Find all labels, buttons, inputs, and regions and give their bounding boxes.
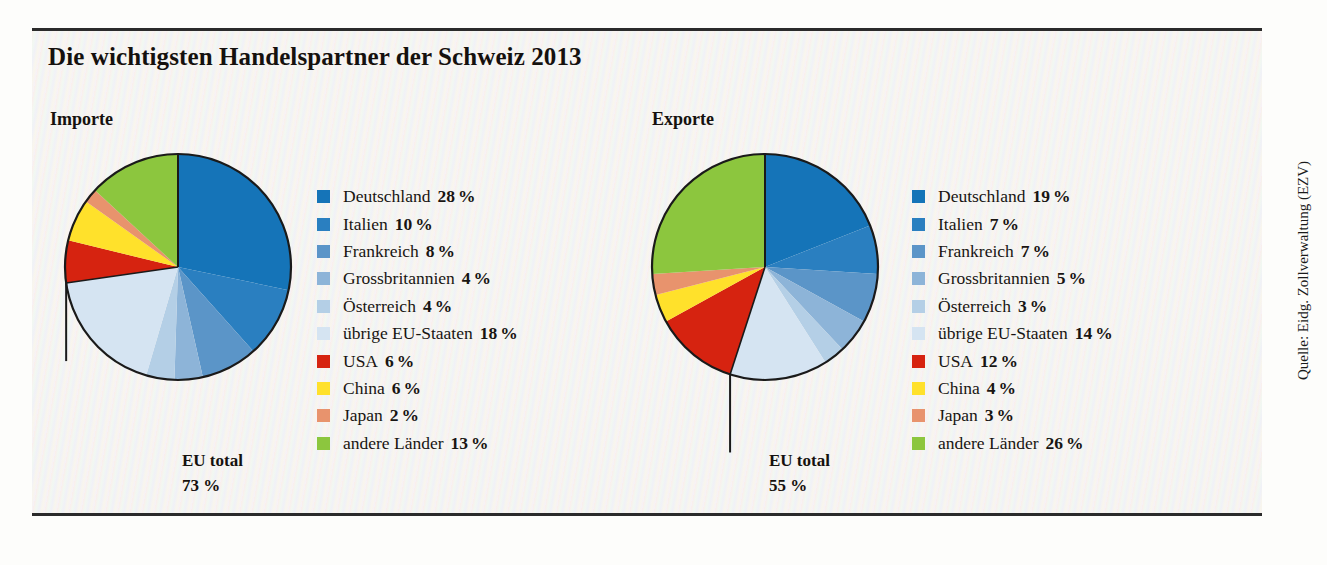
legend-value: 6: [392, 378, 401, 399]
legend-swatch-icon: [317, 409, 330, 422]
legend-swatch-icon: [317, 355, 330, 368]
section-label-exports: Exporte: [652, 109, 714, 130]
legend-label: China: [938, 378, 980, 399]
legend-label: andere Länder: [343, 433, 444, 454]
legend-row: Österreich3%: [912, 293, 1113, 320]
legend-label: Japan: [938, 405, 978, 426]
pie-slices-imports: [65, 154, 291, 380]
legend-swatch-icon: [317, 190, 330, 203]
legend-row: Deutschland19%: [912, 183, 1113, 210]
page-title: Die wichtigsten Handelspartner der Schwe…: [48, 43, 582, 71]
legend-label: Frankreich: [343, 241, 419, 262]
pie-svg-exports: [647, 149, 887, 389]
legend-value: 26: [1046, 433, 1064, 454]
legend-row: USA6%: [317, 347, 518, 374]
legend-swatch-icon: [317, 272, 330, 285]
legend-percent-symbol: %: [999, 378, 1017, 399]
legend-percent-symbol: %: [1001, 214, 1019, 235]
legend-swatch-icon: [317, 382, 330, 395]
legend-percent-symbol: %: [1069, 268, 1087, 289]
legend-value: 18: [480, 323, 498, 344]
legend-row: andere Länder26%: [912, 430, 1113, 457]
legend-percent-symbol: %: [415, 214, 433, 235]
pie-chart-exports: [647, 149, 887, 389]
legend-percent-symbol: %: [500, 323, 518, 344]
legend-label: Frankreich: [938, 241, 1014, 262]
legend-value: 8: [426, 241, 435, 262]
legend-percent-symbol: %: [997, 405, 1015, 426]
legend-exports: Deutschland19%Italien7%Frankreich7%Gross…: [912, 183, 1113, 457]
legend-row: übrige EU-Staaten14%: [912, 320, 1113, 347]
eu-total-exports: EU total 55 %: [769, 449, 830, 498]
legend-row: China6%: [317, 375, 518, 402]
legend-percent-symbol: %: [1095, 323, 1113, 344]
eu-total-label-exports: EU total: [769, 451, 830, 470]
legend-percent-symbol: %: [402, 405, 420, 426]
legend-row: USA12%: [912, 347, 1113, 374]
legend-value: 14: [1075, 323, 1093, 344]
legend-swatch-icon: [912, 190, 925, 203]
legend-row: übrige EU-Staaten18%: [317, 320, 518, 347]
legend-label: Italien: [343, 214, 388, 235]
legend-row: Frankreich8%: [317, 238, 518, 265]
legend-value: 7: [1021, 241, 1030, 262]
legend-label: Deutschland: [938, 186, 1025, 207]
legend-percent-symbol: %: [1030, 296, 1048, 317]
legend-row: China4%: [912, 375, 1113, 402]
legend-value: 4: [987, 378, 996, 399]
legend-value: 7: [990, 214, 999, 235]
legend-swatch-icon: [317, 218, 330, 231]
legend-label: andere Länder: [938, 433, 1039, 454]
pie-chart-imports: [60, 149, 300, 389]
eu-total-imports: EU total 73 %: [182, 449, 243, 498]
pie-slice-andere-laender: [652, 154, 765, 274]
legend-row: Deutschland28%: [317, 183, 518, 210]
legend-percent-symbol: %: [435, 296, 453, 317]
legend-swatch-icon: [317, 300, 330, 313]
legend-value: 3: [985, 405, 994, 426]
legend-swatch-icon: [912, 327, 925, 340]
eu-total-value-imports: 73 %: [182, 474, 243, 499]
legend-row: Grossbritannien5%: [912, 265, 1113, 292]
legend-swatch-icon: [912, 272, 925, 285]
legend-value: 28: [437, 186, 455, 207]
legend-row: Japan2%: [317, 402, 518, 429]
legend-value: 4: [423, 296, 432, 317]
legend-swatch-icon: [912, 300, 925, 313]
legend-swatch-icon: [912, 409, 925, 422]
legend-percent-symbol: %: [1066, 433, 1084, 454]
legend-percent-symbol: %: [474, 268, 492, 289]
legend-swatch-icon: [912, 355, 925, 368]
legend-value: 19: [1032, 186, 1050, 207]
legend-percent-symbol: %: [1033, 241, 1051, 262]
legend-value: 3: [1018, 296, 1027, 317]
chart-panel: Die wichtigsten Handelspartner der Schwe…: [32, 28, 1262, 516]
pie-slice-deutschland: [178, 154, 291, 290]
legend-percent-symbol: %: [1001, 351, 1019, 372]
legend-value: 4: [462, 268, 471, 289]
legend-swatch-icon: [912, 245, 925, 258]
eu-total-value-exports: 55 %: [769, 474, 830, 499]
legend-label: USA: [343, 351, 378, 372]
legend-value: 12: [980, 351, 998, 372]
legend-percent-symbol: %: [404, 378, 422, 399]
legend-label: Österreich: [343, 296, 416, 317]
legend-swatch-icon: [317, 245, 330, 258]
legend-percent-symbol: %: [1053, 186, 1071, 207]
legend-swatch-icon: [317, 327, 330, 340]
eu-total-label-imports: EU total: [182, 451, 243, 470]
legend-label: Italien: [938, 214, 983, 235]
legend-swatch-icon: [912, 218, 925, 231]
legend-value: 6: [385, 351, 394, 372]
legend-percent-symbol: %: [397, 351, 415, 372]
legend-label: Japan: [343, 405, 383, 426]
legend-label: China: [343, 378, 385, 399]
legend-row: Italien7%: [912, 210, 1113, 237]
legend-label: Deutschland: [343, 186, 430, 207]
section-label-imports: Importe: [50, 109, 113, 130]
legend-percent-symbol: %: [471, 433, 489, 454]
legend-imports: Deutschland28%Italien10%Frankreich8%Gros…: [317, 183, 518, 457]
legend-value: 10: [395, 214, 413, 235]
legend-label: übrige EU-Staaten: [938, 323, 1068, 344]
legend-row: andere Länder13%: [317, 430, 518, 457]
